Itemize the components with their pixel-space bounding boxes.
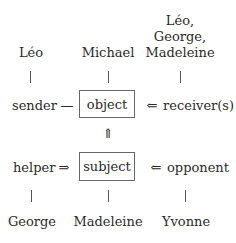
left-double-arrow-icon: ⇐	[147, 98, 158, 113]
connector-line	[30, 71, 31, 83]
subject-actor: Madeleine	[73, 214, 142, 229]
object-actor: Michael	[82, 45, 135, 60]
opponent-actor: Yvonne	[162, 214, 210, 229]
connector-line	[108, 190, 109, 202]
left-double-arrow-icon: ⇐	[151, 160, 162, 175]
up-double-arrow-icon: ⇑	[103, 126, 114, 141]
connector-line	[185, 190, 186, 202]
receiver-label: receiver(s)	[163, 98, 234, 113]
receiver-actor-2: George,	[154, 29, 206, 44]
helper-actor: George	[8, 214, 56, 229]
receiver-actor-3: Madeleine	[145, 45, 214, 60]
sender-label: sender	[12, 98, 57, 113]
right-double-arrow-icon: ⇒	[59, 160, 70, 175]
opponent-label: opponent	[167, 160, 229, 175]
connector-line	[31, 190, 32, 202]
sender-actor: Léo	[19, 45, 43, 60]
helper-label: helper	[13, 160, 55, 175]
connector-line	[108, 71, 109, 83]
subject-label: subject	[83, 159, 131, 174]
connector-line	[180, 71, 181, 83]
sender-connector: —	[61, 98, 74, 113]
object-label: object	[87, 97, 127, 112]
receiver-actor-1: Léo,	[166, 13, 194, 28]
